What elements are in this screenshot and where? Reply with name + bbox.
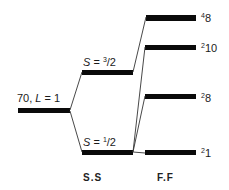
- initial-level-label: 70, L = 1: [17, 92, 60, 104]
- level-bar-2-8: [145, 94, 196, 99]
- level-bar-s12: [82, 150, 133, 155]
- level-bar-2-1: [145, 150, 196, 155]
- label-prefix: 70,: [17, 92, 35, 104]
- level-label-s12: S = 1/2: [83, 136, 116, 148]
- representation: 1: [205, 147, 211, 159]
- label-suffix: = 1: [41, 92, 60, 104]
- label-eq: =: [90, 56, 103, 68]
- connector-line: [133, 17, 146, 72]
- level-label-2-10: 210: [201, 42, 217, 54]
- column-label-ss: S.S: [83, 172, 102, 183]
- connector-line: [133, 96, 145, 152]
- representation: 8: [205, 92, 211, 104]
- label-denominator: /2: [107, 56, 116, 68]
- level-label-s32: S = 3/2: [83, 56, 116, 68]
- column-label-ff: F.F: [157, 172, 174, 183]
- connector-line: [133, 152, 145, 153]
- label-denominator: /2: [107, 136, 116, 148]
- representation: 10: [205, 42, 217, 54]
- level-bar-4-8: [146, 15, 196, 21]
- representation: 8: [205, 12, 211, 24]
- connector-line: [70, 111, 82, 152]
- level-bar-70-L1: [18, 108, 70, 113]
- level-label-4-8: 48: [201, 12, 211, 24]
- level-label-2-8: 28: [201, 92, 211, 104]
- connector-line: [70, 72, 82, 110]
- level-bar-s32: [82, 70, 133, 75]
- level-bar-2-10: [145, 45, 196, 50]
- label-eq: =: [90, 136, 103, 148]
- level-label-2-1: 21: [201, 147, 211, 159]
